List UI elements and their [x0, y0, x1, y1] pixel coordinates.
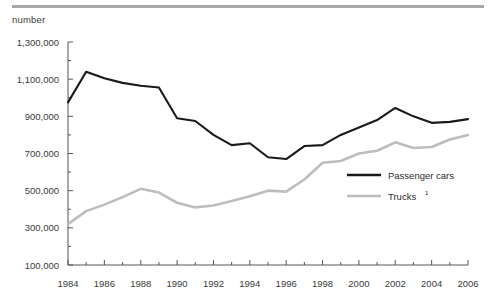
x-axis-tick-marks [68, 260, 468, 265]
x-axis-tick-label: 2002 [385, 278, 406, 289]
y-axis-tick-label: 700,000 [25, 148, 59, 159]
x-axis-tick-label: 2004 [421, 278, 442, 289]
line-chart-svg: 1,300,0001,100,000900,000700,000500,0003… [0, 0, 496, 306]
x-axis-tick-label: 1994 [239, 278, 260, 289]
y-axis-tick-label: 500,000 [25, 185, 59, 196]
x-axis-tick-label: 1992 [203, 278, 224, 289]
chart-legend: Passenger cars Trucks 1 [347, 170, 454, 202]
legend-label-trucks: Trucks [388, 191, 416, 202]
y-axis-tick-labels: 1,300,0001,100,000900,000700,000500,0003… [17, 37, 59, 271]
y-axis-tick-marks [68, 42, 73, 265]
x-axis-tick-label: 1986 [94, 278, 115, 289]
x-axis-tick-label: 1984 [57, 278, 78, 289]
x-axis-tick-labels: 1984198619881990199219941996199820002002… [57, 278, 478, 289]
x-axis-tick-label: 2000 [348, 278, 369, 289]
legend-footnote-marker-trucks: 1 [425, 190, 429, 196]
x-axis-tick-label: 1990 [167, 278, 188, 289]
chart-figure: number 1,300,0001,100,000900,000700,0005… [0, 0, 496, 306]
y-axis-tick-label: 1,100,000 [17, 74, 59, 85]
y-axis-tick-label: 1,300,000 [17, 37, 59, 48]
x-axis-tick-label: 1988 [130, 278, 151, 289]
y-axis-tick-label: 900,000 [25, 111, 59, 122]
x-axis-tick-label: 2006 [457, 278, 478, 289]
y-axis-tick-label: 100,000 [25, 260, 59, 271]
legend-label-passenger-cars: Passenger cars [388, 170, 454, 181]
y-axis-tick-label: 300,000 [25, 222, 59, 233]
x-axis-tick-label: 1998 [312, 278, 333, 289]
x-axis-tick-label: 1996 [276, 278, 297, 289]
